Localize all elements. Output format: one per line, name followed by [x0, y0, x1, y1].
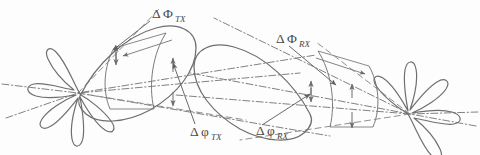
figure-canvas: Δ Φ TX Δ φ TX Δ Φ RX Δ φ RX	[0, 0, 480, 155]
delta-phi-lower-rx-main: Δ	[256, 123, 265, 138]
tx-inner-pointer	[123, 40, 172, 56]
delta-phi-capital-tx-subscript: TX	[175, 14, 186, 24]
rx-axis-lines	[176, 18, 478, 126]
delta-phi-lower-tx-subscript: TX	[211, 132, 222, 142]
antenna-misalignment-figure: Δ Φ TX Δ φ TX Δ Φ RX Δ φ RX	[0, 0, 480, 155]
delta-phi-capital-rx-label: Δ Φ RX	[276, 31, 310, 49]
delta-phi-capital-tx-main: Δ	[152, 6, 161, 21]
delta-phi-lower-tx-label: Δ φ TX	[190, 124, 222, 142]
tx-ridge-upper	[114, 33, 166, 48]
tx-inner-pointer-line	[123, 40, 172, 56]
rx-lower-leader	[262, 94, 310, 125]
tx-beamwidth-arcs	[105, 33, 166, 109]
tx-lower-leader	[173, 63, 195, 124]
tx-beam-edge-upper	[78, 8, 160, 93]
tx-angle-arrows	[116, 46, 173, 106]
delta-phi-lower-tx-main: Δ	[190, 124, 199, 139]
delta-phi-capital-rx-subscript: RX	[298, 39, 310, 49]
delta-phi-lower-tx-symbol: φ	[201, 124, 209, 139]
tx-axis-lines	[2, 55, 330, 136]
tx-capital-leader	[113, 21, 150, 50]
tx-main-lobe	[79, 26, 196, 121]
delta-phi-lower-rx-label: Δ φ RX	[256, 123, 288, 141]
rx-ridge-upper	[318, 51, 369, 66]
delta-phi-lower-rx-symbol: φ	[267, 123, 275, 138]
delta-phi-capital-rx-main: Δ	[276, 31, 285, 46]
rx-beamwidth-arcs	[318, 51, 378, 127]
rx-beam-edge-upper	[316, 42, 410, 114]
rx-main-lobe	[194, 45, 311, 140]
rx-side-lobes	[374, 62, 460, 155]
tx-beam-edge-rays	[78, 8, 246, 120]
rx-beam-edge-lower	[240, 114, 410, 140]
delta-phi-lower-rx-subscript: RX	[276, 131, 288, 141]
delta-phi-capital-tx-symbol: Φ	[163, 6, 173, 21]
delta-phi-capital-tx-label: Δ Φ TX	[152, 6, 186, 24]
rx-lobe-ridges	[318, 51, 373, 127]
tx-antenna-group	[2, 8, 330, 146]
delta-phi-capital-rx-symbol: Φ	[287, 31, 297, 46]
rx-upper-axis	[214, 18, 410, 114]
